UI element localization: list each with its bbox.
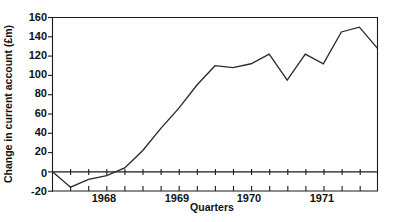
y-tick-label-40: 40 bbox=[35, 126, 47, 138]
y-tick-label-80: 80 bbox=[35, 87, 47, 99]
y-tick-label-60: 60 bbox=[35, 107, 47, 119]
y-tick-label-20: 20 bbox=[35, 145, 47, 157]
line-chart: 160 140 120 100 80 60 40 20 0 -20 bbox=[0, 0, 394, 222]
y-tick-label-minus20: -20 bbox=[31, 185, 47, 197]
year-label-1969: 1969 bbox=[165, 192, 189, 204]
svg-text:Quarters: Quarters bbox=[190, 201, 234, 213]
y-tick-label-160: 160 bbox=[29, 11, 47, 23]
year-label-1968: 1968 bbox=[92, 192, 116, 204]
x-axis-title: Quarters bbox=[190, 201, 234, 213]
year-label-1970: 1970 bbox=[237, 192, 261, 204]
y-tick-label-0: 0 bbox=[41, 167, 47, 179]
y-axis-title: Change in current account (£m) bbox=[2, 25, 14, 183]
svg-text:Change in current account (£m): Change in current account (£m) bbox=[2, 25, 14, 183]
y-tick-label-140: 140 bbox=[29, 30, 47, 42]
y-tick-label-100: 100 bbox=[29, 68, 47, 80]
y-tick-label-120: 120 bbox=[29, 49, 47, 61]
year-label-1971: 1971 bbox=[310, 192, 334, 204]
chart-figure: 160 140 120 100 80 60 40 20 0 -20 bbox=[0, 0, 394, 222]
